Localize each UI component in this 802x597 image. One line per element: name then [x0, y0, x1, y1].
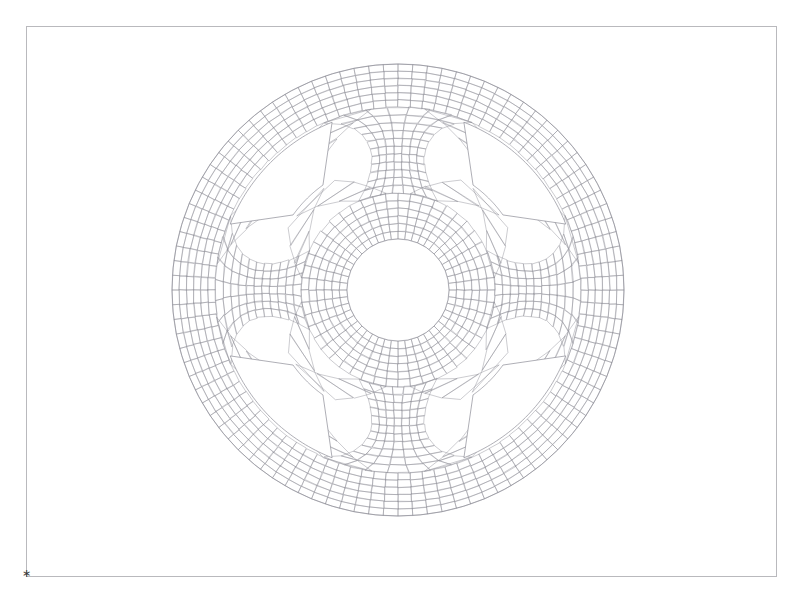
plot-border [26, 26, 777, 577]
mesh-canvas: ∗ Finite Element Mesh — Wheel / Flywheel… [0, 0, 802, 597]
